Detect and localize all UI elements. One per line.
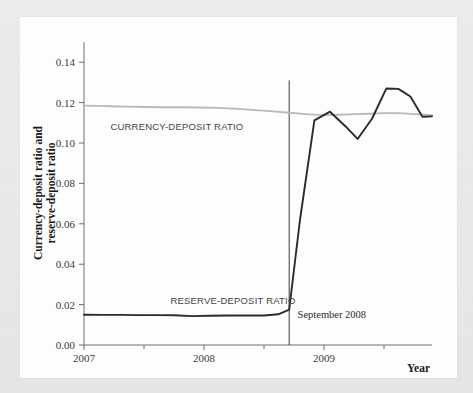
x-tick-label: 2008 <box>193 352 216 364</box>
currency-deposit-ratio-label: CURRENCY-DEPOSIT RATIO <box>110 121 243 132</box>
y-axis-tick-labels: 0.000.020.040.060.080.100.120.14 <box>56 56 76 351</box>
y-tick-label: 0.14 <box>56 56 76 68</box>
y-axis-title-line1: Currency-deposit ratio and <box>32 125 45 260</box>
x-tick-label: 2007 <box>73 352 96 364</box>
y-tick-label: 0.10 <box>56 137 76 149</box>
figure-panel: 0.000.020.040.060.080.100.120.14 2007200… <box>20 17 457 378</box>
y-tick-label: 0.06 <box>56 218 76 230</box>
x-tick-label: 2009 <box>313 352 336 364</box>
y-tick-label: 0.04 <box>56 258 76 270</box>
y-axis-ticks <box>79 62 84 345</box>
x-axis-title: Year <box>407 362 430 374</box>
y-tick-label: 0.02 <box>56 299 75 311</box>
currency-deposit-ratio-line <box>84 106 432 115</box>
y-tick-label: 0.00 <box>56 339 76 351</box>
y-tick-label: 0.08 <box>56 177 76 189</box>
figure-page: 0.000.020.040.060.080.100.120.14 2007200… <box>0 0 473 393</box>
line-chart: 0.000.020.040.060.080.100.120.14 2007200… <box>20 17 457 378</box>
y-axis-title-line2: reserve-deposit ratio <box>45 142 58 243</box>
x-axis-tick-labels: 200720082009 <box>73 352 336 364</box>
september-2008-annotation-label: September 2008 <box>298 309 367 320</box>
reserve-deposit-ratio-label: RESERVE-DEPOSIT RATIO <box>170 295 295 306</box>
x-axis-ticks <box>84 345 384 350</box>
y-axis-title: Currency-deposit ratio and reserve-depos… <box>32 125 58 260</box>
y-tick-label: 0.12 <box>56 97 75 109</box>
